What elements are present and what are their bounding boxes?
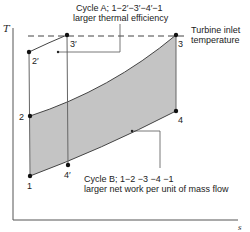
point-4prime [66,163,70,167]
point-1 [28,174,32,178]
cycle-a-label-line1: Cycle A; 1−2′−3′−4′−1 [76,3,163,13]
point-4prime-label: 4′ [64,170,71,180]
cycle-b-region [30,35,176,176]
cycle-b-leader-dot [131,130,133,132]
point-3prime-label: 3′ [70,39,77,49]
cycle-a-leader-dot [57,51,59,53]
point-2prime-label: 2′ [32,56,39,66]
point-4 [174,109,178,113]
point-2 [28,114,32,118]
x-axis-label: s [238,224,242,232]
cycle-b-label-line1: Cycle B; 1−2 −3 −4 −1 [84,174,174,184]
point-1-label: 1 [27,181,32,191]
turbine-inlet-label-line1: Turbine inlet [191,25,241,35]
point-3prime [65,33,69,37]
point-2-label: 2 [19,112,24,122]
point-4-label: 4 [178,115,183,125]
ts-diagram: T s 1 2 3 4 2′ 3′ 4′ Turbine inlet tempe… [0,0,250,232]
cycle-a-label-line2: larger thermal efficiency [73,13,169,23]
y-axis-label: T [3,23,11,34]
turbine-inlet-label-line2: temperature [191,35,240,45]
point-2prime [27,50,31,54]
cycle-b-leader-line [132,131,160,168]
line-2prime-3prime [29,35,67,52]
cycle-b-label-line2: larger net work per unit of mass flow [84,184,229,194]
point-3 [174,33,178,37]
point-3-label: 3 [178,39,183,49]
